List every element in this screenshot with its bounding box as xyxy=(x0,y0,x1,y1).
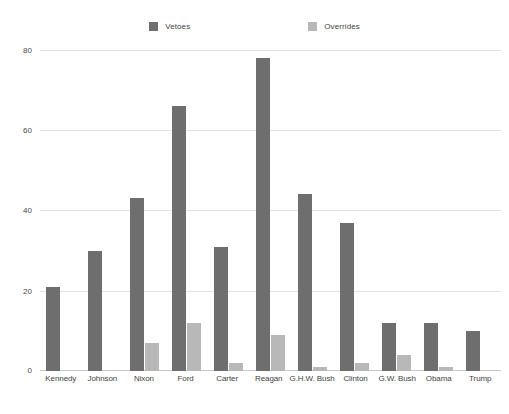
bar-vetoes[interactable] xyxy=(382,323,396,371)
bar-chart: Vetoes Overrides 80 60 40 20 0 KennedyJo… xyxy=(0,0,509,414)
x-label-reagan: Reagan xyxy=(248,374,290,383)
y-tick-label-20: 20 xyxy=(23,287,32,296)
x-label-g-h-w-bush: G.H.W. Bush xyxy=(290,374,335,383)
bar-vetoes[interactable] xyxy=(214,247,228,371)
bar-group xyxy=(124,50,166,371)
bar-series-container xyxy=(40,50,501,371)
square-swatch-icon xyxy=(308,22,317,31)
bar-overrides[interactable] xyxy=(187,323,201,371)
x-label-carter: Carter xyxy=(206,374,248,383)
x-label-trump: Trump xyxy=(459,374,501,383)
bar-overrides[interactable] xyxy=(229,363,243,371)
bar-vetoes[interactable] xyxy=(424,323,438,371)
bar-vetoes[interactable] xyxy=(88,251,102,371)
bar-group xyxy=(333,50,375,371)
bar-group xyxy=(82,50,124,371)
bar-overrides[interactable] xyxy=(439,367,453,371)
x-label-kennedy: Kennedy xyxy=(40,374,82,383)
bar-overrides[interactable] xyxy=(397,355,411,371)
bar-group xyxy=(291,50,333,371)
bar-overrides[interactable] xyxy=(271,335,285,371)
bar-group xyxy=(459,50,501,371)
bar-group xyxy=(417,50,459,371)
legend-item-vetoes[interactable]: Vetoes xyxy=(149,22,190,31)
y-tick-label-80: 80 xyxy=(23,46,32,55)
chart-legend: Vetoes Overrides xyxy=(0,18,509,34)
x-label-obama: Obama xyxy=(418,374,460,383)
bar-overrides[interactable] xyxy=(355,363,369,371)
bar-overrides[interactable] xyxy=(313,367,327,371)
legend-label-overrides: Overrides xyxy=(324,22,360,31)
bar-vetoes[interactable] xyxy=(172,106,186,371)
y-tick-label-60: 60 xyxy=(23,126,32,135)
bar-vetoes[interactable] xyxy=(256,58,270,371)
bar-overrides[interactable] xyxy=(145,343,159,371)
bar-vetoes[interactable] xyxy=(46,287,60,371)
bar-group xyxy=(250,50,292,371)
plot-area: 80 60 40 20 0 xyxy=(40,50,501,371)
legend-item-overrides[interactable]: Overrides xyxy=(308,22,360,31)
bar-vetoes[interactable] xyxy=(340,223,354,371)
legend-label-vetoes: Vetoes xyxy=(165,22,190,31)
x-label-nixon: Nixon xyxy=(123,374,165,383)
bar-group xyxy=(166,50,208,371)
x-axis-labels: KennedyJohnsonNixonFordCarterReaganG.H.W… xyxy=(40,374,501,383)
bar-group xyxy=(40,50,82,371)
bar-group xyxy=(375,50,417,371)
bar-vetoes[interactable] xyxy=(466,331,480,371)
x-label-ford: Ford xyxy=(165,374,207,383)
x-label-johnson: Johnson xyxy=(82,374,124,383)
y-tick-label-0: 0 xyxy=(28,366,32,375)
y-tick-label-40: 40 xyxy=(23,206,32,215)
bar-vetoes[interactable] xyxy=(298,194,312,371)
x-label-g-w-bush: G.W. Bush xyxy=(376,374,418,383)
bar-group xyxy=(208,50,250,371)
bar-vetoes[interactable] xyxy=(130,198,144,371)
square-swatch-icon xyxy=(149,22,158,31)
x-label-clinton: Clinton xyxy=(335,374,377,383)
